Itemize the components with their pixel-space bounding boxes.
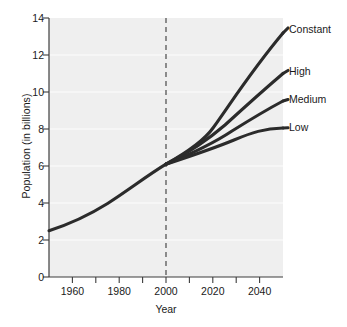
- x-tick-label-2020: 2020: [193, 286, 233, 297]
- series-label-high: High: [289, 66, 311, 77]
- x-axis-tick-labels: 1960 1980 2000 2020 2040: [0, 0, 347, 327]
- y-axis-title: Population (in billions): [20, 46, 32, 246]
- x-tick-label-1960: 1960: [52, 286, 92, 297]
- series-label-low: Low: [289, 122, 308, 133]
- series-label-constant: Constant: [289, 24, 331, 35]
- x-tick-label-2040: 2040: [240, 286, 280, 297]
- population-projection-chart: 0 2 4 6 8 10 12 14 1960 1980 2000 2020 2…: [0, 0, 347, 327]
- x-tick-label-2000: 2000: [146, 286, 186, 297]
- x-tick-label-1980: 1980: [99, 286, 139, 297]
- series-label-medium: Medium: [289, 94, 326, 105]
- x-axis-title: Year: [48, 303, 284, 315]
